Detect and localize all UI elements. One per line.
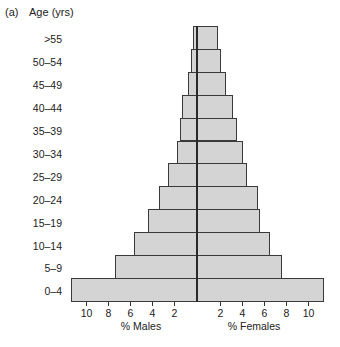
bar-females <box>197 141 243 165</box>
tick-left <box>86 302 87 306</box>
tick-right <box>242 302 243 306</box>
bar-females <box>197 118 237 142</box>
x-axis-title-males: % Males <box>121 320 161 332</box>
tick-right-label: 6 <box>262 307 268 319</box>
bar-males <box>177 141 198 165</box>
bar-males <box>71 278 199 302</box>
age-group-label: 35–39 <box>33 125 62 137</box>
tick-left-label: 10 <box>81 307 93 319</box>
bar-males <box>134 232 198 256</box>
age-group-label: 50–54 <box>33 56 62 68</box>
tick-left <box>130 302 131 306</box>
tick-right <box>286 302 287 306</box>
tick-left <box>152 302 153 306</box>
tick-right-label: 10 <box>303 307 315 319</box>
center-axis-line <box>196 26 198 302</box>
bar-males <box>159 186 199 210</box>
age-group-label: 15–19 <box>33 217 62 229</box>
bar-females <box>197 278 324 302</box>
tick-right <box>220 302 221 306</box>
bar-males <box>148 209 199 233</box>
age-group-label: 40–44 <box>33 102 62 114</box>
age-group-label: 0–4 <box>44 285 62 297</box>
tick-left <box>174 302 175 306</box>
bar-males <box>115 255 199 279</box>
bar-males <box>168 163 198 187</box>
age-group-label: 10–14 <box>33 240 62 252</box>
bar-females <box>197 95 233 119</box>
tick-right-label: 2 <box>218 307 224 319</box>
age-group-label: >55 <box>44 33 62 45</box>
age-group-label: 5–9 <box>44 262 62 274</box>
bar-females <box>197 255 282 279</box>
bar-females <box>197 72 226 96</box>
tick-right-label: 4 <box>240 307 246 319</box>
y-axis-title: Age (yrs) <box>29 6 74 18</box>
tick-right <box>264 302 265 306</box>
bar-females <box>197 26 218 50</box>
bar-females <box>197 186 258 210</box>
age-group-label: 30–34 <box>33 148 62 160</box>
age-group-label: 20–24 <box>33 194 62 206</box>
age-group-label: 45–49 <box>33 79 62 91</box>
tick-left-label: 4 <box>150 307 156 319</box>
tick-right <box>308 302 309 306</box>
x-axis-title-females: % Females <box>228 320 281 332</box>
bar-females <box>197 163 247 187</box>
tick-left <box>108 302 109 306</box>
bar-females <box>197 232 270 256</box>
tick-left-label: 8 <box>106 307 112 319</box>
tick-right-label: 8 <box>284 307 290 319</box>
age-group-label: 25–29 <box>33 171 62 183</box>
tick-left-label: 2 <box>172 307 178 319</box>
panel-label: (a) <box>5 6 18 18</box>
tick-left-label: 6 <box>128 307 134 319</box>
bar-females <box>197 49 221 73</box>
bar-females <box>197 209 260 233</box>
